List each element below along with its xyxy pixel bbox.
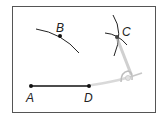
point-A — [29, 84, 33, 88]
label-A: A — [26, 92, 34, 104]
point-D — [87, 84, 91, 88]
point-C — [115, 35, 119, 39]
construction-figure: B C A D — [0, 0, 165, 119]
compass-icon — [92, 38, 142, 85]
label-C: C — [122, 26, 131, 38]
label-D: D — [84, 92, 93, 104]
label-B: B — [56, 22, 64, 34]
construction-drawing — [0, 0, 165, 119]
